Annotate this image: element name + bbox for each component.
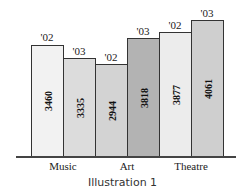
bar-value: 2944 (106, 101, 117, 121)
bar-year-label: '02 (31, 31, 63, 43)
bar-year-label: '02 (95, 51, 127, 63)
category-label-art: Art (95, 160, 159, 172)
bar-year-label: '03 (127, 25, 159, 37)
bar-music-03: 3335 (63, 58, 96, 157)
bar-year-label: '03 (191, 7, 223, 19)
category-label-music: Music (31, 160, 95, 172)
bar-year-label: '02 (159, 19, 191, 31)
bar-art-03: 3818 (127, 38, 160, 157)
bar-theatre-03: 4061 (191, 20, 224, 157)
bar-year-label: '03 (63, 45, 95, 57)
bar-music-02: 3460 (31, 45, 64, 157)
bar-value: 3460 (42, 91, 53, 111)
x-axis (16, 156, 236, 158)
bar-art-02: 2944 (95, 64, 128, 157)
bar-theatre-02: 3877 (159, 32, 192, 157)
bar-value: 3818 (138, 88, 149, 108)
bar-value: 3877 (170, 85, 181, 105)
bar-value: 3335 (74, 98, 85, 118)
chart-caption: Illustration 1 (0, 176, 245, 189)
category-label-theatre: Theatre (159, 160, 223, 172)
bar-value: 4061 (202, 79, 213, 99)
